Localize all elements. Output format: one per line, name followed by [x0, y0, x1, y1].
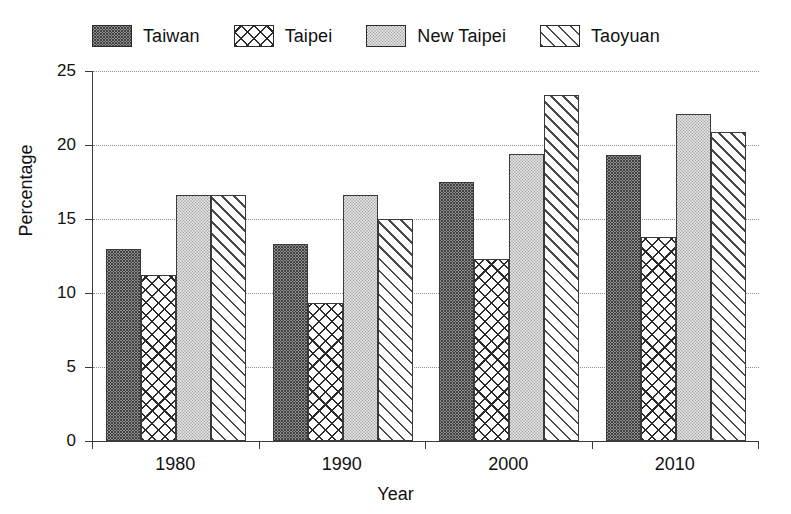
- bar: [343, 195, 378, 441]
- x-tick-mark: [259, 441, 260, 449]
- y-tick-label: 25: [30, 61, 76, 81]
- bar: [641, 237, 676, 441]
- x-tick-label: 2010: [615, 454, 735, 475]
- y-tick-mark: [85, 367, 92, 368]
- light-stipple-swatch: [366, 25, 406, 47]
- x-tick-label: 2000: [448, 454, 568, 475]
- y-tick-label: 5: [30, 357, 76, 377]
- y-tick-label: 10: [30, 283, 76, 303]
- bar: [106, 249, 141, 441]
- dark-stipple-swatch: [92, 25, 132, 47]
- chart-legend: TaiwanTaipeiNew TaipeiTaoyuan: [92, 16, 758, 56]
- legend-label: Taoyuan: [591, 26, 660, 47]
- bar: [509, 154, 544, 441]
- x-tick-mark: [425, 441, 426, 449]
- x-tick-mark: [92, 441, 93, 449]
- legend-entry[interactable]: Taiwan: [92, 25, 200, 47]
- x-tick-label: 1990: [282, 454, 402, 475]
- y-tick-mark: [85, 441, 92, 442]
- y-tick-mark: [85, 71, 92, 72]
- bar: [676, 114, 711, 441]
- diagonal-hatch-swatch: [540, 25, 580, 47]
- bar: [606, 155, 641, 441]
- y-tick-label: 20: [30, 135, 76, 155]
- y-tick-label: 0: [30, 431, 76, 451]
- y-tick-mark: [85, 145, 92, 146]
- bar: [544, 95, 579, 441]
- legend-label: Taipei: [285, 26, 333, 47]
- x-tick-mark: [758, 441, 759, 449]
- plot-area: [92, 71, 759, 442]
- legend-label: Taiwan: [143, 26, 200, 47]
- x-tick-mark: [592, 441, 593, 449]
- bar: [378, 219, 413, 441]
- legend-entry[interactable]: Taipei: [234, 25, 333, 47]
- y-tick-mark: [85, 293, 92, 294]
- bar: [439, 182, 474, 441]
- bar: [474, 259, 509, 441]
- bar: [176, 195, 211, 441]
- crosshatch-swatch: [234, 25, 274, 47]
- legend-entry[interactable]: Taoyuan: [540, 25, 660, 47]
- y-tick-label: 15: [30, 209, 76, 229]
- bar: [711, 132, 746, 441]
- y-tick-mark: [85, 219, 92, 220]
- y-axis-title: Percentage: [16, 101, 37, 281]
- legend-label: New Taipei: [417, 26, 506, 47]
- gridline: [93, 145, 759, 146]
- x-axis-title: Year: [0, 484, 791, 505]
- bar: [211, 195, 246, 441]
- bar: [141, 275, 176, 441]
- bar-chart: TaiwanTaipeiNew TaipeiTaoyuan Percentage…: [0, 0, 791, 514]
- x-tick-label: 1980: [115, 454, 235, 475]
- gridline: [93, 71, 759, 72]
- bar: [308, 303, 343, 441]
- legend-entry[interactable]: New Taipei: [366, 25, 506, 47]
- bar: [273, 244, 308, 441]
